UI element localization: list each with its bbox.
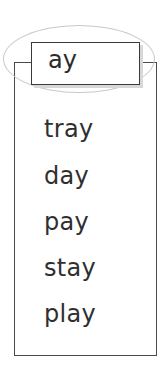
phoneme-header-box: ay xyxy=(31,42,140,85)
word-item: play xyxy=(44,300,96,328)
word-item: day xyxy=(44,162,89,190)
word-item: stay xyxy=(44,254,96,282)
phoneme-label: ay xyxy=(48,46,77,74)
word-item: pay xyxy=(44,208,89,236)
word-item: tray xyxy=(44,115,93,143)
